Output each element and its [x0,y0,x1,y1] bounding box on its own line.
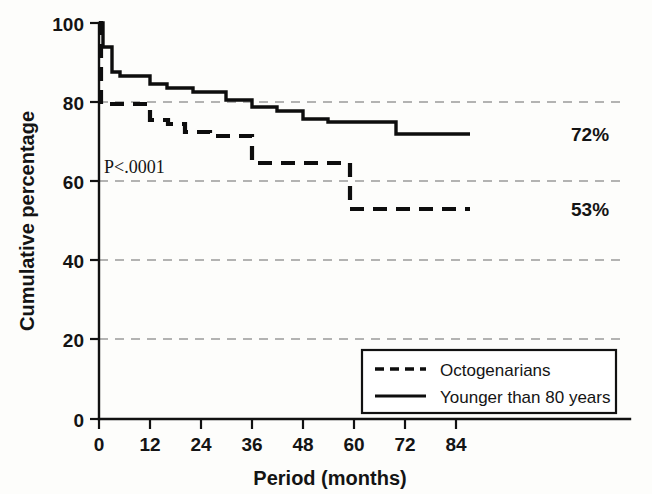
endpoint-label-dashed: 53% [571,199,609,220]
y-tick-label-60: 60 [63,172,84,193]
x-axis-title: Period (months) [253,467,406,489]
y-tick-label-100: 100 [52,14,84,35]
p-value-annotation: P<.0001 [104,157,165,177]
x-tick-label-12: 12 [139,434,160,455]
legend: Octogenarians Younger than 80 years [362,350,616,413]
chart-canvas: 100 80 60 40 20 0 0 12 24 36 48 60 72 84… [0,0,652,494]
x-tick-label-0: 0 [94,434,105,455]
x-tick-label-84: 84 [445,434,467,455]
y-tick-label-20: 20 [63,330,84,351]
x-tick-label-60: 60 [343,434,364,455]
endpoint-label-solid: 72% [571,124,609,145]
x-tick-label-72: 72 [394,434,415,455]
y-tick-label-40: 40 [63,251,84,272]
y-tick-label-80: 80 [63,93,84,114]
kaplan-meier-figure: 100 80 60 40 20 0 0 12 24 36 48 60 72 84… [0,0,652,494]
x-tick-label-24: 24 [190,434,212,455]
x-tick-label-48: 48 [292,434,313,455]
legend-label-younger-than-80: Younger than 80 years [440,388,610,407]
y-axis-title: Cumulative percentage [16,111,38,331]
x-tick-label-36: 36 [241,434,262,455]
y-tick-label-0: 0 [73,410,84,431]
legend-label-octogenarians: Octogenarians [440,361,551,380]
